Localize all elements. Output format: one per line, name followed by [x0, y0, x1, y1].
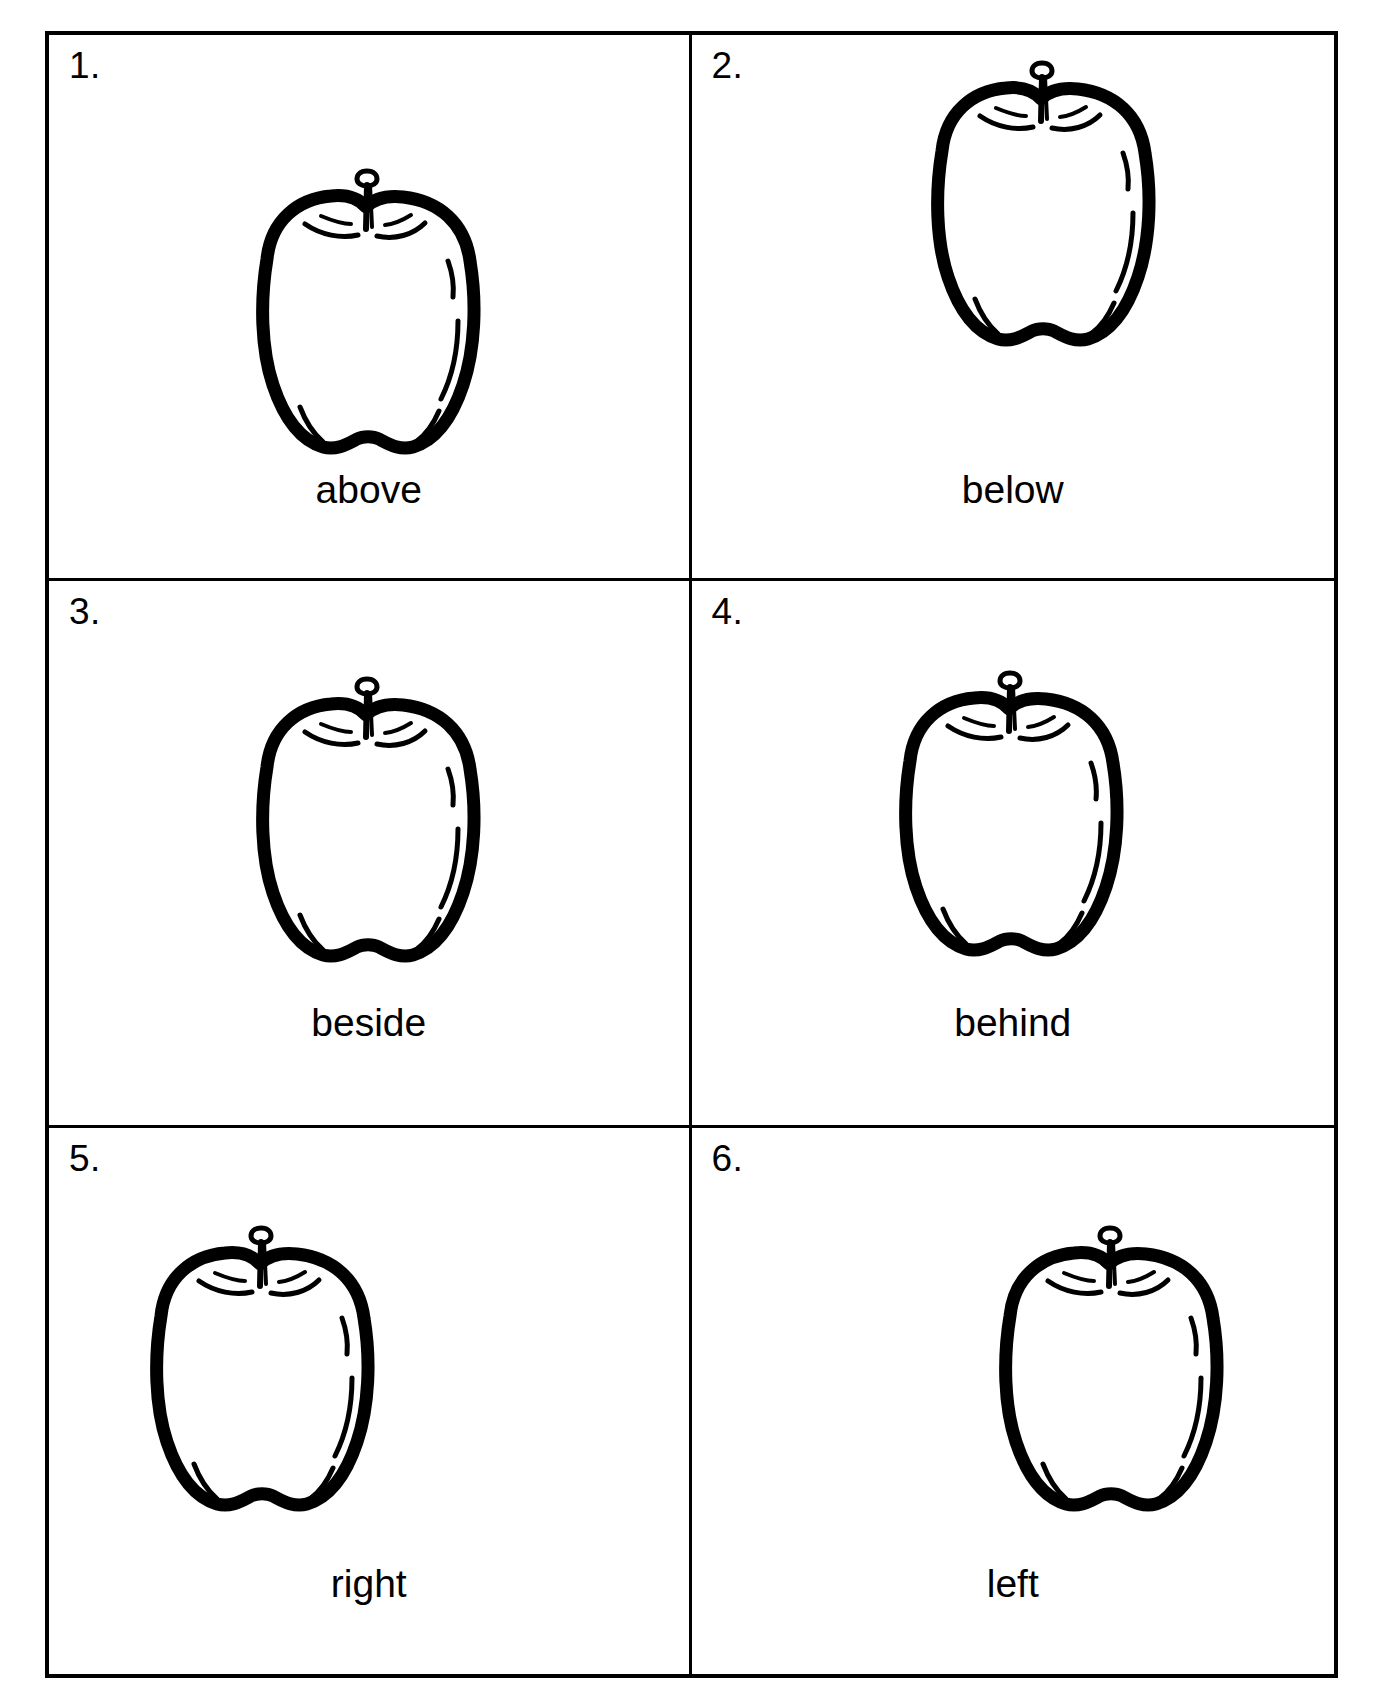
apple-icon [970, 1220, 1250, 1520]
worksheet-cell-4[interactable]: 4. [692, 581, 1335, 1127]
apple-icon [902, 55, 1182, 355]
cell-number-3: 3. [69, 593, 101, 630]
cell-label-2: below [692, 470, 1335, 509]
worksheet-grid: 1. [49, 35, 1334, 1674]
worksheet-table: 1. [45, 31, 1338, 1678]
apple-icon [227, 163, 507, 463]
apple-icon [121, 1220, 401, 1520]
cell-number-1: 1. [69, 47, 101, 84]
cell-number-2: 2. [712, 47, 744, 84]
worksheet-cell-5[interactable]: 5. [49, 1128, 692, 1674]
apple-icon [227, 671, 507, 971]
worksheet-cell-1[interactable]: 1. [49, 35, 692, 581]
cell-label-1: above [49, 470, 689, 509]
worksheet-cell-2[interactable]: 2. [692, 35, 1335, 581]
cell-number-6: 6. [712, 1140, 744, 1177]
cell-label-3: beside [49, 1003, 689, 1042]
cell-number-4: 4. [712, 593, 744, 630]
worksheet-cell-6[interactable]: 6. [692, 1128, 1335, 1674]
cell-label-4: behind [692, 1003, 1335, 1042]
apple-icon [870, 665, 1150, 965]
cell-label-5: right [49, 1564, 689, 1603]
cell-number-5: 5. [69, 1140, 101, 1177]
cell-label-6: left [692, 1564, 1335, 1603]
worksheet-cell-3[interactable]: 3. [49, 581, 692, 1127]
